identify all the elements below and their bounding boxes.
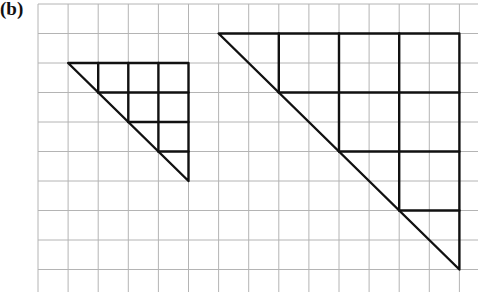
grid-diagram: [0, 0, 478, 292]
background-grid: [38, 4, 478, 292]
